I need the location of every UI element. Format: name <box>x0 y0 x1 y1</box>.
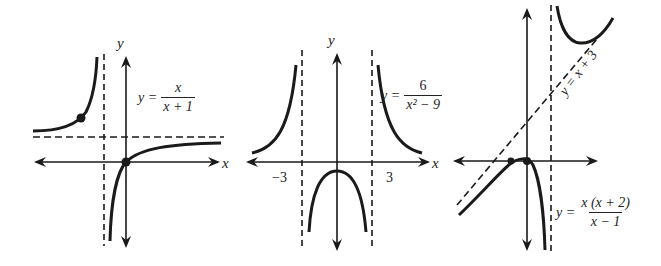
equation-label: y = 6 x² − 9 <box>381 78 442 113</box>
graph-1 <box>33 54 224 246</box>
x-axis-label: x <box>432 156 439 171</box>
equation-lhs: y = <box>381 88 400 104</box>
curve-left-branch <box>459 159 545 250</box>
equation-denominator: x + 1 <box>161 97 195 115</box>
tick-label-3: 3 <box>386 171 393 185</box>
equation-lhs: y = <box>138 90 157 106</box>
x-axis-label: x <box>222 156 229 171</box>
curve-right-branch <box>557 6 613 43</box>
equation-label: y = x (x + 2) x − 1 <box>556 195 632 230</box>
equation-denominator: x − 1 <box>589 212 623 230</box>
equation-numerator: x (x + 2) <box>579 195 632 212</box>
equation-label: y = x x + 1 <box>138 80 195 115</box>
tick-label-neg3: −3 <box>272 171 287 185</box>
equation-numerator: x <box>173 80 183 97</box>
y-axis-label: y <box>117 36 124 51</box>
root-point-marker <box>508 158 515 165</box>
equation-numerator: 6 <box>418 78 429 95</box>
equation-lhs: y = <box>556 205 575 221</box>
origin-point-marker <box>122 158 131 167</box>
curve-left-branch <box>33 57 97 131</box>
origin-point-marker <box>523 157 531 165</box>
point-marker <box>77 114 86 123</box>
y-axis-label: y <box>328 33 335 48</box>
curve-left-branch <box>252 65 296 153</box>
equation-denominator: x² − 9 <box>404 95 442 113</box>
